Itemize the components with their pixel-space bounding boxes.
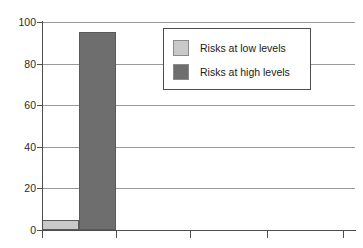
legend-label-low: Risks at low levels <box>200 42 286 54</box>
y-tick-80 <box>37 64 43 65</box>
y-tick-label-40: 40 <box>2 142 36 152</box>
x-tick-2 <box>190 231 191 238</box>
x-tick-1 <box>116 231 117 238</box>
y-tick-label-0: 0 <box>2 225 36 235</box>
y-axis-line <box>42 21 43 231</box>
y-tick-60 <box>37 105 43 106</box>
x-tick-3 <box>267 231 268 238</box>
chart-legend: Risks at low levels Risks at high levels <box>163 28 311 90</box>
y-tick-20 <box>37 188 43 189</box>
gridline-100 <box>42 22 355 23</box>
y-tick-label-60: 60 <box>2 100 36 110</box>
x-axis-line <box>42 230 356 231</box>
legend-item-high: Risks at high levels <box>173 60 310 84</box>
x-tick-4 <box>343 231 344 238</box>
y-tick-40 <box>37 147 43 148</box>
legend-swatch-low-icon <box>173 40 189 56</box>
y-tick-label-80: 80 <box>2 59 36 69</box>
legend-item-low: Risks at low levels <box>173 36 310 60</box>
legend-swatch-high-icon <box>173 64 189 80</box>
y-tick-label-100: 100 <box>2 17 36 27</box>
bar-risks-at-low-levels <box>42 220 79 230</box>
x-tick-0 <box>42 231 43 238</box>
legend-label-high: Risks at high levels <box>200 66 290 78</box>
bar-chart: 100 80 60 40 20 0 Risks at low levels Ri… <box>0 0 363 248</box>
bar-risks-at-high-levels <box>79 32 116 230</box>
y-tick-label-20: 20 <box>2 183 36 193</box>
y-tick-100 <box>37 22 43 23</box>
